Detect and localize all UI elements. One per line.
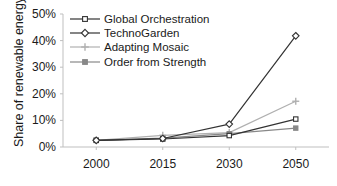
data-point-marker [227,133,231,137]
legend-label: Order from Strength [102,56,206,68]
chart-legend: Global OrchestrationTechnoGardenAdapting… [68,12,228,69]
series-line [96,119,296,140]
data-point-marker [81,30,88,37]
legend-marker-icon [68,26,102,40]
data-point-marker [294,126,298,130]
legend-item-order-from-strength[interactable]: Order from Strength [68,55,228,69]
legend-item-technogarden[interactable]: TechnoGarden [68,26,228,40]
y-axis-tick-label: 0% [12,141,56,153]
legend-label: TechnoGarden [102,27,179,39]
data-point-marker [292,98,299,105]
legend-item-adapting-mosaic[interactable]: Adapting Mosaic [68,40,228,54]
legend-marker-icon [68,55,102,69]
y-axis-tick-label: 40% [12,35,56,47]
x-axis-tick-labels: 2000201520302050 [0,157,337,177]
series-line [96,101,296,140]
data-point-marker [81,44,89,52]
y-axis-tick-label: 20% [12,88,56,100]
y-axis-tick-label: 10% [12,114,56,126]
x-axis-tick-label: 2030 [199,157,259,171]
data-point-marker [83,59,88,64]
legend-label: Adapting Mosaic [102,41,189,53]
data-point-marker [83,17,88,22]
legend-item-global-orchestration[interactable]: Global Orchestration [68,12,228,26]
legend-label: Global Orchestration [102,13,209,25]
legend-marker-icon [68,40,102,54]
y-axis-tick-label: 30% [12,61,56,73]
data-point-marker [294,117,298,121]
x-axis-tick-label: 2015 [133,157,193,171]
legend-marker-icon [68,12,102,26]
renewable-energy-line-chart: Share of renewable energy 0%10%20%30%40%… [0,0,337,186]
x-axis-tick-label: 2000 [66,157,126,171]
x-axis-tick-label: 2050 [266,157,326,171]
y-axis-tick-label: 50% [12,8,56,20]
